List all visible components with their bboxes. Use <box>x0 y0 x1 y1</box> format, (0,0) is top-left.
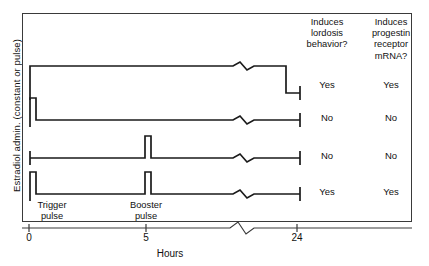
x-axis-line <box>22 222 412 234</box>
trace-row-1-constant <box>30 62 300 100</box>
trace-row-4-trigger-plus-booster <box>30 172 300 201</box>
estradiol-administration-figure: Estradiol admin. (constant or pulse) Ind… <box>0 0 429 266</box>
trace-row-3-booster-pulse <box>30 136 300 165</box>
trace-row-2-trigger-pulse <box>30 98 300 127</box>
figure-vector-layer <box>0 0 429 266</box>
